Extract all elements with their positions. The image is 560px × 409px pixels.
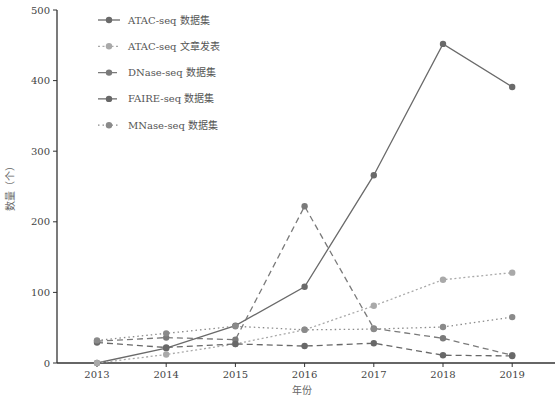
data-point [371,340,377,346]
x-tick-label: 2015 [223,369,248,380]
legend: ATAC-seq 数据集ATAC-seq 文章发表DNase-seq 数据集FA… [98,14,220,131]
data-point [94,337,100,343]
series-4 [94,314,516,344]
x-tick-label: 2016 [292,369,317,380]
data-point [440,41,446,47]
data-point [301,327,307,333]
x-tick-label: 2013 [84,369,109,380]
data-point [371,303,377,309]
legend-label: ATAC-seq 数据集 [127,14,210,26]
data-point [440,276,446,282]
legend-label: DNase-seq 数据集 [128,66,216,78]
data-point [509,314,515,320]
data-point [163,351,169,357]
x-tick-label: 2014 [153,369,178,380]
x-tick-label: 2017 [361,369,386,380]
data-point [301,203,307,209]
legend-marker [106,69,112,75]
x-tick-label: 2018 [430,369,455,380]
y-axis-title: 数量（个） [4,161,16,211]
x-ticks: 2013201420152016201720182019 [84,363,525,380]
legend-label: FAIRE-seq 数据集 [128,92,214,104]
legend-item: MNase-seq 数据集 [98,119,218,131]
data-point [509,353,515,359]
data-point [94,360,100,366]
legend-marker [106,122,112,128]
data-point [440,335,446,341]
legend-label: MNase-seq 数据集 [128,119,218,131]
data-point [163,344,169,350]
y-ticks: 0100200300400500 [31,5,57,369]
data-point [163,330,169,336]
legend-marker [106,17,112,23]
y-tick-label: 500 [31,5,50,16]
legend-marker [106,43,112,49]
data-point [232,323,238,329]
data-point [509,84,515,90]
data-point [371,172,377,178]
x-tick-label: 2019 [499,369,524,380]
data-point [301,284,307,290]
data-point [371,326,377,332]
legend-label: ATAC-seq 文章发表 [127,40,220,52]
data-point [301,343,307,349]
y-tick-label: 300 [31,146,50,157]
legend-item: DNase-seq 数据集 [98,66,216,78]
data-point [440,324,446,330]
legend-item: ATAC-seq 文章发表 [98,40,220,52]
data-point [509,269,515,275]
data-point [440,352,446,358]
y-tick-label: 200 [31,216,50,227]
legend-marker [106,96,112,102]
axes [57,10,555,363]
legend-item: FAIRE-seq 数据集 [98,92,214,104]
series-2 [94,203,516,358]
legend-item: ATAC-seq 数据集 [98,14,210,26]
y-tick-label: 0 [44,358,50,369]
line-chart: 0100200300400500 20132014201520162017201… [0,0,560,409]
y-tick-label: 100 [31,287,50,298]
series-layer [94,41,516,367]
data-point [232,341,238,347]
y-tick-label: 400 [31,75,50,86]
x-axis-title: 年份 [292,384,312,396]
